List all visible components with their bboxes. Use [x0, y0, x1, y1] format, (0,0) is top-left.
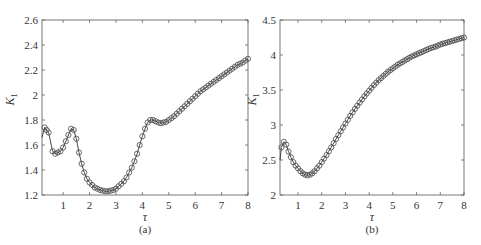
x-tick-label: 5	[166, 199, 172, 211]
y-axis-label-subscript: 1	[10, 93, 19, 97]
y-tick-label: 4.5	[262, 14, 276, 26]
y-tick-label: 2.5	[262, 154, 276, 166]
x-tick-label: 1	[295, 199, 301, 211]
x-tick-label: 6	[414, 199, 420, 211]
series-line	[280, 38, 464, 176]
y-axis-label: K1	[245, 93, 261, 106]
panel-label: (a)	[139, 223, 152, 236]
chart-panel-b: 1234567822.533.544.5τ(b)K1	[245, 14, 467, 236]
x-tick-label: 7	[219, 199, 225, 211]
x-axis-label: τ	[370, 210, 375, 224]
x-tick-label: 5	[390, 199, 396, 211]
x-tick-label: 8	[245, 199, 251, 211]
plot-frame	[42, 20, 248, 195]
x-tick-label: 3	[113, 199, 119, 211]
chart-panel-a: 123456781.21.41.61.822.22.42.6τ(a)K1	[3, 14, 251, 236]
x-axis-label: τ	[143, 210, 148, 224]
y-tick-label: 1.2	[24, 189, 38, 201]
figure: 123456781.21.41.61.822.22.42.6τ(a)K1 123…	[0, 0, 481, 245]
x-tick-label: 6	[192, 199, 198, 211]
y-tick-label: 1.6	[24, 139, 38, 151]
series-line	[42, 59, 248, 192]
y-tick-label: 2.6	[24, 14, 38, 26]
x-tick-label: 2	[319, 199, 325, 211]
y-tick-label: 1.4	[24, 164, 38, 176]
y-tick-label: 1.8	[24, 114, 38, 126]
y-tick-label: 2.2	[24, 64, 38, 76]
y-tick-label: 4	[271, 49, 277, 61]
x-tick-label: 3	[343, 199, 349, 211]
y-tick-label: 3.5	[262, 84, 276, 96]
x-tick-label: 1	[60, 199, 66, 211]
y-axis-label-subscript: 1	[252, 93, 261, 97]
x-tick-label: 2	[87, 199, 93, 211]
y-tick-label: 2.4	[24, 39, 38, 51]
x-tick-label: 7	[438, 199, 444, 211]
y-tick-label: 3	[271, 119, 277, 131]
x-tick-label: 8	[461, 199, 467, 211]
panel-label: (b)	[366, 223, 379, 236]
y-tick-label: 2	[271, 189, 277, 201]
y-axis-label: K1	[3, 93, 19, 106]
y-tick-label: 2	[33, 89, 39, 101]
